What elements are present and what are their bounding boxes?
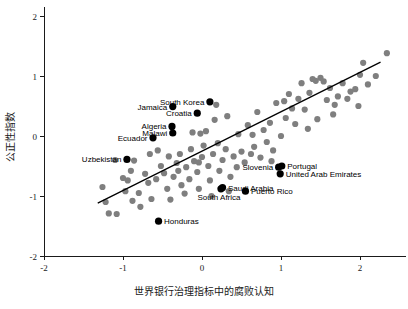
data-point — [197, 131, 203, 137]
data-point — [175, 168, 181, 174]
data-point — [286, 91, 292, 97]
data-point — [200, 143, 206, 149]
data-point — [177, 151, 183, 157]
data-point — [128, 168, 134, 174]
data-point — [231, 153, 237, 159]
x-tick-label: -1 — [119, 263, 127, 273]
highlighted-data-point — [278, 162, 285, 169]
data-point — [234, 164, 240, 170]
highlighted-data-point — [149, 134, 156, 141]
data-point — [164, 186, 170, 192]
data-point — [224, 113, 230, 119]
data-point — [203, 128, 209, 134]
data-point — [158, 163, 164, 169]
data-point — [194, 169, 200, 175]
data-point — [142, 171, 148, 177]
data-point — [238, 149, 244, 155]
data-point — [210, 151, 216, 157]
point-label: Puerto Rico — [251, 187, 293, 196]
data-point — [298, 80, 304, 86]
data-point — [344, 96, 350, 102]
highlighted-data-point — [123, 156, 130, 163]
data-point — [281, 98, 287, 104]
data-point — [292, 121, 298, 127]
data-point — [125, 177, 131, 183]
y-tick-label: 1 — [33, 72, 38, 82]
x-tick-label: 1 — [279, 263, 284, 273]
x-tick-label: 2 — [358, 263, 363, 273]
highlighted-data-point — [168, 123, 175, 130]
data-point — [384, 50, 390, 56]
data-point — [302, 107, 308, 113]
highlighted-data-point — [206, 98, 213, 105]
data-point — [129, 198, 135, 204]
data-point — [199, 154, 205, 160]
data-point — [261, 127, 267, 133]
data-point — [248, 151, 254, 157]
data-point — [314, 116, 320, 122]
point-label: Croatia — [166, 109, 192, 118]
data-point — [324, 97, 330, 103]
data-point — [321, 78, 327, 84]
data-point — [188, 146, 194, 152]
data-point — [136, 190, 142, 196]
highlighted-data-point — [194, 110, 201, 117]
trend-line — [98, 62, 381, 203]
y-tick-label: -2 — [30, 252, 38, 262]
data-point — [360, 60, 366, 66]
data-point — [167, 197, 173, 203]
data-point — [257, 155, 263, 161]
data-point — [251, 144, 257, 150]
data-point — [186, 176, 192, 182]
highlighted-data-point — [242, 188, 249, 195]
data-point — [131, 158, 137, 164]
data-point — [99, 184, 105, 190]
x-axis-title: 世界银行治理指标中的腐败认知 — [134, 285, 274, 297]
data-point — [305, 126, 311, 132]
point-label: Uzbekistan — [82, 155, 122, 164]
data-point — [166, 153, 172, 159]
data-point — [213, 102, 219, 108]
data-point — [267, 120, 273, 126]
point-label: Jamaica — [137, 103, 167, 112]
data-point — [219, 157, 225, 163]
data-point — [196, 159, 202, 165]
data-point — [306, 90, 312, 96]
data-point — [283, 115, 289, 121]
data-point — [295, 96, 301, 102]
regression-line — [98, 62, 381, 203]
y-tick-label: 0 — [33, 132, 38, 142]
plot-canvas: -2-1012-2-1012 South KoreaJamaicaCroatia… — [0, 0, 408, 309]
highlighted-data-point — [155, 218, 162, 225]
y-tick-label: 2 — [33, 12, 38, 22]
data-point — [148, 196, 154, 202]
data-point — [273, 100, 279, 106]
axes: -2-1012-2-1012 — [30, 7, 407, 273]
data-point — [196, 186, 202, 192]
data-point — [183, 164, 189, 170]
y-axis-title: 公正性指数 — [4, 112, 16, 162]
data-point — [207, 177, 213, 183]
highlighted-data-point — [277, 170, 284, 177]
data-point — [223, 146, 229, 152]
data-point — [352, 86, 358, 92]
data-point — [147, 151, 153, 157]
data-point — [178, 182, 184, 188]
data-point — [212, 117, 218, 123]
data-point — [153, 176, 159, 182]
data-point — [254, 109, 260, 115]
data-point — [278, 133, 284, 139]
highlighted-data-point — [169, 129, 176, 136]
point-label: South Africa — [197, 193, 241, 202]
point-label: United Arab Emirates — [286, 170, 362, 179]
data-point — [216, 168, 222, 174]
point-label: Ecuador — [118, 134, 148, 143]
data-point — [189, 129, 195, 135]
data-point — [205, 163, 211, 169]
data-point — [355, 103, 361, 109]
x-tick-label: 0 — [200, 263, 205, 273]
data-point — [155, 147, 161, 153]
data-point — [114, 211, 120, 217]
data-point — [227, 174, 233, 180]
x-tick-label: -2 — [40, 263, 48, 273]
